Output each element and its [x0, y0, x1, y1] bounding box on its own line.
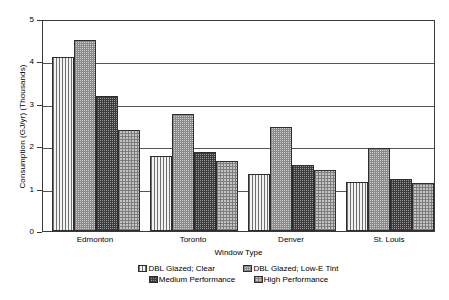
- bar-toronto-dbl-glazed-low-e-tint: [172, 114, 194, 231]
- legend-swatch-dbl-glazed-clear-icon: [138, 265, 147, 272]
- legend-swatch-high-performance-icon: [254, 276, 263, 283]
- y-tick-label-3: 3: [30, 101, 34, 109]
- bar-edmonton-dbl-glazed-clear: [52, 57, 74, 231]
- bar-edmonton-medium-performance: [96, 96, 118, 231]
- bar-st-louis-dbl-glazed-clear: [346, 182, 368, 231]
- legend-label-medium-performance: Medium Performance: [159, 275, 235, 284]
- bar-group-st-louis: [346, 21, 435, 231]
- bar-group-toronto: [150, 21, 239, 231]
- x-tick-label-toronto: Toronto: [180, 235, 207, 244]
- chart-legend: DBL Glazed; Clear DBL Glazed; Low-E Tint…: [42, 264, 435, 284]
- bar-toronto-medium-performance: [194, 152, 216, 231]
- legend-label-dbl-glazed-low-e-tint: DBL Glazed; Low-E Tint: [253, 264, 338, 273]
- plot-area: [42, 20, 435, 232]
- bar-chart-figure: Consumption (GJ/yr) (Thousands) 0 1 2 3 …: [0, 0, 449, 300]
- bar-st-louis-dbl-glazed-low-e-tint: [368, 148, 390, 231]
- bar-st-louis-high-performance: [412, 183, 434, 231]
- legend-item-dbl-glazed-clear: DBL Glazed; Clear: [138, 264, 243, 273]
- y-tick-label-1: 1: [30, 186, 34, 194]
- bar-denver-dbl-glazed-low-e-tint: [270, 127, 292, 231]
- x-tick-label-st-louis: St. Louis: [373, 235, 404, 244]
- bar-denver-high-performance: [314, 170, 336, 231]
- y-axis: 0 1 2 3 4 5: [0, 20, 42, 232]
- y-tick-label-4: 4: [30, 58, 34, 66]
- bar-denver-dbl-glazed-clear: [248, 174, 270, 231]
- legend-item-medium-performance: Medium Performance: [149, 275, 254, 284]
- y-tick-label-0: 0: [30, 228, 34, 236]
- legend-item-dbl-glazed-low-e-tint: DBL Glazed; Low-E Tint: [243, 264, 338, 273]
- bar-container: [43, 21, 434, 231]
- bar-edmonton-high-performance: [118, 130, 140, 231]
- bar-denver-medium-performance: [292, 165, 314, 231]
- bar-edmonton-dbl-glazed-low-e-tint: [74, 40, 96, 231]
- x-axis-title: Window Type: [42, 248, 435, 257]
- legend-label-dbl-glazed-clear: DBL Glazed; Clear: [148, 264, 214, 273]
- legend-swatch-dbl-glazed-low-e-tint-icon: [243, 265, 252, 272]
- legend-item-high-performance: High Performance: [254, 275, 328, 284]
- x-tick-label-denver: Denver: [278, 235, 304, 244]
- bar-st-louis-medium-performance: [390, 179, 412, 231]
- bar-group-edmonton: [52, 21, 141, 231]
- y-tick-label-2: 2: [30, 143, 34, 151]
- bar-toronto-dbl-glazed-clear: [150, 156, 172, 231]
- y-tick-label-5: 5: [30, 16, 34, 24]
- legend-label-high-performance: High Performance: [264, 275, 328, 284]
- bar-toronto-high-performance: [216, 161, 238, 231]
- legend-swatch-medium-performance-icon: [149, 276, 158, 283]
- bar-group-denver: [248, 21, 337, 231]
- x-tick-label-edmonton: Edmonton: [77, 235, 113, 244]
